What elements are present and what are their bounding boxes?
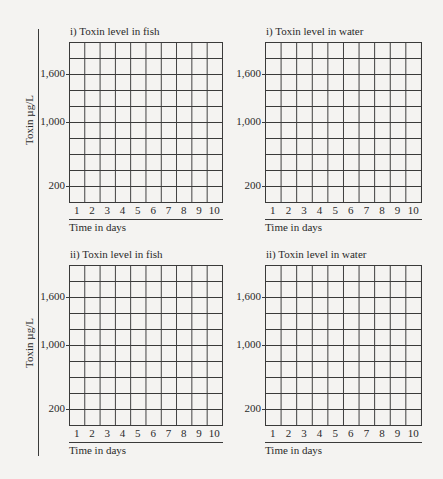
x-tick-label: 3: [99, 427, 115, 439]
chart-panel: ii) Toxin level in fish1,6001,0002001234…: [69, 265, 223, 476]
x-tick-label: 5: [327, 204, 343, 216]
x-axis-line: [265, 442, 422, 443]
y-tick-label: 1,600: [25, 290, 65, 302]
x-tick-label: 3: [296, 204, 312, 216]
x-tick-label: 7: [160, 204, 176, 216]
x-tick-label: 4: [115, 427, 131, 439]
x-tick-label: 10: [405, 204, 421, 216]
chart-title: i) Toxin level in water: [266, 25, 363, 37]
x-tick-label: 2: [280, 427, 296, 439]
x-tick-label: 6: [343, 427, 359, 439]
chart-grid: [69, 42, 223, 203]
x-tick-label: 7: [358, 427, 374, 439]
y-tick-label: 200: [25, 179, 65, 191]
x-tick-label: 9: [390, 427, 406, 439]
x-axis-line: [69, 219, 223, 220]
y-tick-mark: [66, 186, 69, 187]
x-tick-label: 1: [69, 204, 85, 216]
x-axis-label: Time in days: [69, 444, 126, 456]
chart-grid: [265, 265, 422, 426]
y-tick-mark: [66, 74, 69, 75]
chart-panel: i) Toxin level in water1,6001,0002001234…: [265, 42, 422, 253]
x-tick-label: 4: [312, 204, 328, 216]
y-tick-label: 1,600: [221, 290, 261, 302]
y-tick-mark: [262, 409, 265, 410]
x-tick-label: 8: [374, 204, 390, 216]
y-tick-mark: [66, 345, 69, 346]
x-tick-label: 7: [160, 427, 176, 439]
y-tick-mark: [66, 122, 69, 123]
x-axis-line: [265, 219, 422, 220]
y-tick-mark: [66, 409, 69, 410]
y-tick-mark: [262, 345, 265, 346]
chart-title: ii) Toxin level in water: [266, 248, 366, 260]
x-tick-label: 8: [374, 427, 390, 439]
x-axis-label: Time in days: [265, 221, 322, 233]
x-tick-label: 6: [145, 204, 161, 216]
x-tick-label: 7: [358, 204, 374, 216]
x-tick-label: 9: [191, 427, 207, 439]
y-tick-mark: [262, 186, 265, 187]
x-axis-label: Time in days: [69, 221, 126, 233]
x-tick-label: 4: [115, 204, 131, 216]
y-tick-label: 1,600: [221, 67, 261, 79]
chart-grid: [69, 265, 223, 426]
y-tick-mark: [262, 297, 265, 298]
x-tick-label: 6: [145, 427, 161, 439]
x-tick-label: 4: [312, 427, 328, 439]
x-tick-label: 2: [280, 204, 296, 216]
x-tick-label: 3: [99, 204, 115, 216]
x-tick-label: 5: [130, 427, 146, 439]
x-axis-label: Time in days: [265, 444, 322, 456]
y-tick-label: 200: [25, 402, 65, 414]
y-tick-label: 1,000: [221, 115, 261, 127]
x-tick-label: 2: [84, 204, 100, 216]
chart-title: i) Toxin level in fish: [70, 25, 159, 37]
y-tick-label: 1,000: [25, 115, 65, 127]
x-tick-label: 10: [206, 204, 222, 216]
x-tick-label: 8: [176, 427, 192, 439]
x-tick-label: 1: [265, 427, 281, 439]
y-tick-label: 1,600: [25, 67, 65, 79]
y-tick-mark: [262, 74, 265, 75]
y-tick-label: 1,000: [221, 338, 261, 350]
x-tick-label: 9: [191, 204, 207, 216]
x-tick-label: 5: [327, 427, 343, 439]
y-tick-mark: [66, 297, 69, 298]
x-tick-label: 1: [69, 427, 85, 439]
y-tick-label: 200: [221, 402, 261, 414]
chart-panel: ii) Toxin level in water1,6001,000200123…: [265, 265, 422, 476]
y-tick-mark: [262, 122, 265, 123]
x-tick-label: 8: [176, 204, 192, 216]
chart-title: ii) Toxin level in fish: [70, 248, 163, 260]
x-tick-label: 1: [265, 204, 281, 216]
x-tick-label: 9: [390, 204, 406, 216]
y-axis-divider-line: [38, 29, 39, 456]
x-tick-label: 2: [84, 427, 100, 439]
x-tick-label: 10: [405, 427, 421, 439]
chart-grid: [265, 42, 422, 203]
x-tick-label: 3: [296, 427, 312, 439]
x-tick-label: 6: [343, 204, 359, 216]
x-axis-line: [69, 442, 223, 443]
y-tick-label: 200: [221, 179, 261, 191]
y-tick-label: 1,000: [25, 338, 65, 350]
x-tick-label: 10: [206, 427, 222, 439]
x-tick-label: 5: [130, 204, 146, 216]
chart-panel: i) Toxin level in fish1,6001,00020012345…: [69, 42, 223, 253]
